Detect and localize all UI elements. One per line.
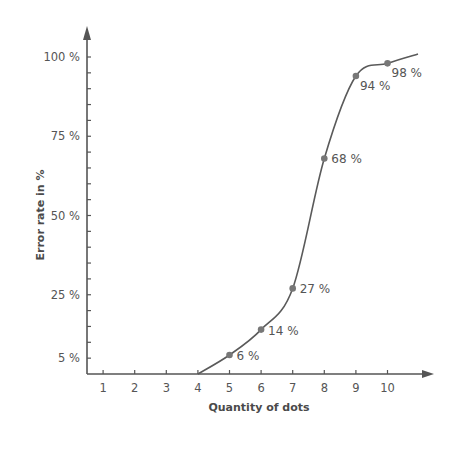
y-tick-label: 100 % <box>43 50 80 64</box>
x-tick-label: 2 <box>131 381 138 395</box>
data-point-marker <box>384 60 391 67</box>
data-point-label: 14 % <box>268 324 299 338</box>
x-tick-label: 4 <box>194 381 201 395</box>
y-axis-arrow-icon <box>83 26 91 40</box>
data-point-marker <box>321 155 328 162</box>
x-axis-arrow-icon <box>422 370 434 378</box>
y-tick-label: 75 % <box>51 129 80 143</box>
y-tick-label: 5 % <box>58 351 80 365</box>
data-point-label: 6 % <box>237 349 260 363</box>
y-tick-label: 50 % <box>51 209 80 223</box>
x-tick-label: 5 <box>226 381 233 395</box>
data-point-label: 94 % <box>360 79 391 93</box>
x-tick-label: 7 <box>289 381 296 395</box>
error-rate-chart: 5 %25 %50 %75 %100 % 12345678910 6 %14 %… <box>0 0 454 460</box>
data-points: 6 %14 %27 %68 %94 %98 % <box>226 60 422 363</box>
x-tick-label: 1 <box>99 381 106 395</box>
x-tick-label: 9 <box>352 381 359 395</box>
data-point-label: 98 % <box>392 66 423 80</box>
data-point-marker <box>289 285 296 292</box>
y-axis-title: Error rate in % <box>34 169 47 260</box>
data-point-label: 68 % <box>331 152 362 166</box>
data-point-marker <box>258 326 265 333</box>
x-axis-title: Quantity of dots <box>208 401 310 414</box>
y-tick-label: 25 % <box>51 288 80 302</box>
data-point-marker <box>353 73 360 80</box>
y-axis: 5 %25 %50 %75 %100 % <box>43 26 91 374</box>
x-tick-label: 10 <box>380 381 395 395</box>
data-point-marker <box>226 352 233 359</box>
x-tick-label: 8 <box>321 381 328 395</box>
error-curve <box>198 54 418 374</box>
x-axis: 12345678910 <box>87 370 434 395</box>
data-point-label: 27 % <box>300 282 331 296</box>
x-tick-label: 3 <box>163 381 170 395</box>
x-tick-label: 6 <box>257 381 264 395</box>
